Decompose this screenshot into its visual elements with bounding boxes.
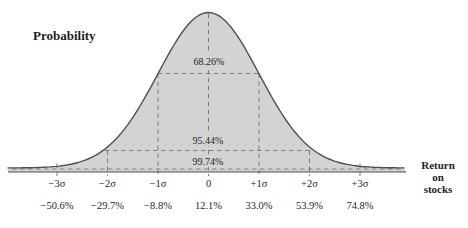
sigma-tick-5: +2σ xyxy=(301,178,318,189)
return-tick-1: −29.7% xyxy=(91,200,124,211)
return-tick-2: −8.8% xyxy=(144,200,172,211)
return-tick-3: 12.1% xyxy=(195,200,222,211)
sigma-tick-labels: −3σ−2σ−1σ0+1σ+2σ+3σ xyxy=(49,178,369,189)
sigma-tick-2: −1σ xyxy=(150,178,167,189)
sigma-tick-6: +3σ xyxy=(352,178,369,189)
x-axis-title-line2: on xyxy=(432,171,444,183)
band-label-99: 99.74% xyxy=(193,156,224,167)
band-label-95: 95.44% xyxy=(193,135,224,146)
return-tick-4: 33.0% xyxy=(245,200,272,211)
return-tick-0: −50.6% xyxy=(40,200,73,211)
sigma-tick-1: −2σ xyxy=(99,178,116,189)
band-label-68: 68.26% xyxy=(194,56,225,67)
x-axis-title-line3: stocks xyxy=(424,183,453,195)
sigma-tick-0: −3σ xyxy=(49,178,66,189)
sigma-tick-4: +1σ xyxy=(251,178,268,189)
sigma-tick-3: 0 xyxy=(206,178,211,189)
probability-axis-label: Probability xyxy=(33,28,96,43)
return-tick-6: 74.8% xyxy=(346,200,373,211)
normal-distribution-chart: 68.26% 95.44% 99.74% Probability −3σ−2σ−… xyxy=(0,0,468,228)
x-axis-title-line1: Return xyxy=(421,159,455,171)
return-tick-5: 53.9% xyxy=(296,200,323,211)
return-tick-labels: −50.6%−29.7%−8.8%12.1%33.0%53.9%74.8% xyxy=(40,200,373,211)
